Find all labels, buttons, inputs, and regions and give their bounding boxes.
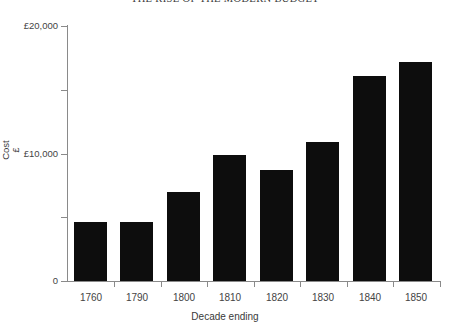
y-axis-tick (61, 281, 68, 282)
bar-1850 (399, 62, 432, 281)
y-axis-tick (61, 90, 68, 91)
x-axis-title: Decade ending (0, 311, 450, 322)
bar-1760 (74, 222, 107, 281)
x-axis-tick (161, 281, 162, 287)
y-axis-title: Cost £ (1, 115, 21, 185)
plot-area: £20,000 £10,000 0 1760 1790 1800 1810 18 (0, 0, 450, 329)
x-axis-tick (207, 281, 208, 287)
bar-1820 (260, 170, 293, 281)
x-axis-tick (114, 281, 115, 287)
y-axis-tick-label: 0 (0, 275, 58, 286)
y-axis-tick (61, 217, 68, 218)
x-axis-tick (254, 281, 255, 287)
x-axis-tick (300, 281, 301, 287)
bar-1830 (306, 142, 339, 281)
x-axis-tick (347, 281, 348, 287)
x-axis-label-1850: 1850 (386, 292, 446, 303)
x-axis-tick (393, 281, 394, 287)
y-axis-tick (61, 26, 68, 27)
y-axis-title-text: Cost (0, 140, 11, 160)
y-axis-tick (61, 154, 68, 155)
bar-1810 (213, 155, 246, 281)
y-axis-tick-label: £20,000 (0, 20, 58, 31)
y-axis-unit: £ (11, 115, 21, 185)
x-axis-tick (440, 281, 441, 287)
bar-1800 (167, 192, 200, 281)
chart-page: THE RISE OF THE MODERN BUDGET £20,000 £1… (0, 0, 450, 329)
bar-1840 (353, 76, 386, 281)
bar-1790 (120, 222, 153, 281)
